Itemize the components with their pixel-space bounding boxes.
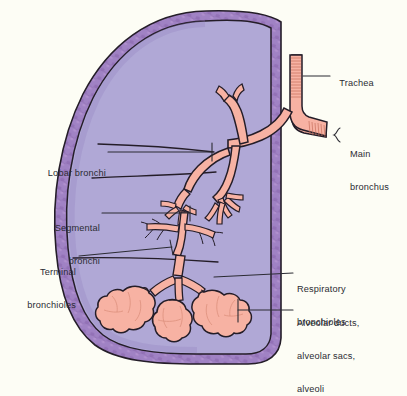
- label-alveolar-structures-line3: alveoli: [297, 384, 360, 395]
- label-respiratory-bronchioles-line1: Respiratory: [297, 284, 346, 295]
- label-alveolar-structures: Alveolar ducts, alveolar sacs, alveoli: [297, 296, 360, 396]
- label-trachea-text: Trachea: [339, 78, 373, 88]
- label-terminal-bronchioles-line2: bronchioles: [12, 300, 76, 311]
- label-segmental-bronchi-line1: Segmental: [22, 223, 100, 234]
- label-lobar-bronchi-line1: Lobar bronchi: [22, 168, 106, 179]
- label-main-bronchus-line1: Main: [350, 149, 389, 160]
- label-terminal-bronchioles: Terminal bronchioles: [12, 245, 76, 322]
- label-trachea: Trachea: [334, 67, 374, 89]
- label-main-bronchus: Main bronchus: [350, 127, 389, 204]
- label-lobar-bronchi: Lobar bronchi: [22, 146, 106, 190]
- label-terminal-bronchioles-line1: Terminal: [12, 267, 76, 278]
- label-main-bronchus-line2: bronchus: [350, 182, 389, 193]
- label-alveolar-structures-line1: Alveolar ducts,: [297, 318, 360, 329]
- label-alveolar-structures-line2: alveolar sacs,: [297, 351, 360, 362]
